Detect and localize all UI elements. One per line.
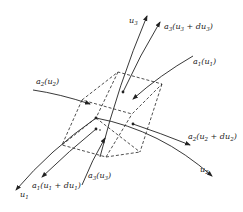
label-u1: u1	[20, 190, 29, 200]
a1-u1-du1-vector	[42, 129, 96, 177]
u2-axis-curve	[96, 118, 212, 176]
volume-element-diagram: u3 a3(u3 + du3) a1(u1) a2(u2) a2(u2 + du…	[0, 0, 243, 212]
label-a3-u3-du3: a3(u3 + du3)	[164, 22, 213, 32]
a1-u1-vector	[133, 56, 193, 99]
label-a3-u3: a3(u3)	[88, 171, 111, 181]
label-u3: u3	[129, 16, 138, 26]
face-center-dots	[95, 91, 135, 131]
coordinate-curves	[16, 16, 212, 190]
label-a1-u1-du1: a1(u1 + du1)	[32, 181, 81, 191]
diagram-canvas: u3 a3(u3 + du3) a1(u1) a2(u2) a2(u2 + du…	[0, 0, 243, 212]
u3-axis-curve	[100, 16, 147, 157]
label-a2-u2-du2: a2(u2 + du2)	[188, 132, 237, 142]
label-a2-u2: a2(u2)	[36, 77, 59, 87]
label-u2: u2	[200, 165, 209, 175]
a2-u2-du2-vector	[133, 124, 190, 145]
label-a1-u1: a1(u1)	[193, 57, 216, 67]
